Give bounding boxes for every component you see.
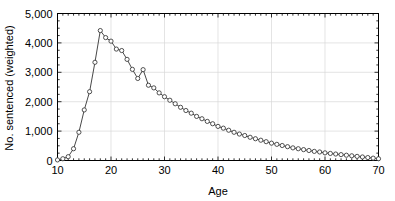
y-tick-label: 2,000 <box>25 96 53 108</box>
data-point-marker <box>275 142 279 146</box>
data-point-marker <box>109 39 113 43</box>
data-point-marker <box>339 153 343 157</box>
data-point-marker <box>104 36 108 40</box>
data-point-marker <box>71 147 75 151</box>
data-point-marker <box>184 108 188 112</box>
data-point-marker <box>152 86 156 90</box>
data-point-marker <box>371 156 375 160</box>
x-tick-label: 40 <box>212 164 224 176</box>
data-point-marker <box>302 148 306 152</box>
x-tick-label: 30 <box>158 164 170 176</box>
line-chart: 10203040506070 01,0002,0003,0004,0005,00… <box>0 0 395 201</box>
data-point-marker <box>227 128 231 132</box>
y-tick-label: 4,000 <box>25 37 53 49</box>
data-point-marker <box>280 143 284 147</box>
data-point-marker <box>125 57 129 61</box>
data-point-marker <box>61 157 65 161</box>
data-point-marker <box>88 90 92 94</box>
data-point-marker <box>237 132 241 136</box>
y-axis-title: No. sentenced (weighted) <box>3 25 15 150</box>
data-point-marker <box>360 155 364 159</box>
data-point-marker <box>120 48 124 52</box>
data-point-marker <box>98 28 102 32</box>
data-point-marker <box>114 47 118 51</box>
data-point-marker <box>269 141 273 145</box>
data-point-marker <box>296 147 300 151</box>
data-point-marker <box>366 155 370 159</box>
data-point-marker <box>146 83 150 87</box>
data-point-marker <box>344 153 348 157</box>
data-point-marker <box>200 117 204 121</box>
data-point-marker <box>334 152 338 156</box>
x-tick-label: 50 <box>265 164 277 176</box>
x-tick-label: 10 <box>51 164 63 176</box>
data-point-marker <box>157 91 161 95</box>
data-point-marker <box>355 154 359 158</box>
data-point-marker <box>141 68 145 72</box>
y-tick-label: 5,000 <box>25 8 53 20</box>
data-point-marker <box>376 157 380 161</box>
data-point-marker <box>221 126 225 130</box>
data-point-marker <box>211 122 215 126</box>
data-point-marker <box>130 67 134 71</box>
data-point-marker <box>136 76 140 80</box>
data-point-marker <box>55 158 59 162</box>
data-point-marker <box>205 119 209 123</box>
data-point-marker <box>195 114 199 118</box>
data-point-marker <box>243 133 247 137</box>
data-point-marker <box>285 145 289 149</box>
y-tick-label: 1,000 <box>25 125 53 137</box>
data-point-marker <box>232 130 236 134</box>
data-point-marker <box>168 98 172 102</box>
x-tick-label: 20 <box>105 164 117 176</box>
y-tick-label: 0 <box>46 155 52 167</box>
x-tick-label: 60 <box>319 164 331 176</box>
data-point-marker <box>178 105 182 109</box>
data-point-marker <box>82 108 86 112</box>
data-point-marker <box>350 154 354 158</box>
data-point-marker <box>216 124 220 128</box>
chart-screenshot: 10203040506070 01,0002,0003,0004,0005,00… <box>0 0 395 201</box>
data-point-marker <box>162 95 166 99</box>
data-point-marker <box>66 155 70 159</box>
y-tick-label: 3,000 <box>25 66 53 78</box>
data-point-marker <box>264 140 268 144</box>
data-point-marker <box>291 146 295 150</box>
data-point-marker <box>323 151 327 155</box>
data-point-marker <box>259 138 263 142</box>
x-axis-title: Age <box>208 185 228 197</box>
data-point-marker <box>328 151 332 155</box>
data-point-marker <box>189 111 193 115</box>
data-point-marker <box>318 150 322 154</box>
data-point-marker <box>93 60 97 64</box>
data-point-marker <box>253 137 257 141</box>
x-tick-label: 70 <box>372 164 384 176</box>
data-point-marker <box>173 102 177 106</box>
data-point-marker <box>248 135 252 139</box>
data-point-marker <box>77 130 81 134</box>
data-point-marker <box>307 148 311 152</box>
data-point-marker <box>312 149 316 153</box>
